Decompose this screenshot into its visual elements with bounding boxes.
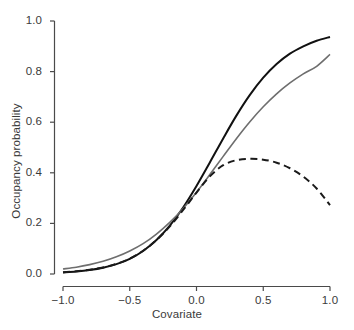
y-tick-label: 0.0 xyxy=(8,267,42,279)
y-axis-ticks xyxy=(50,21,55,274)
y-axis-title: Occupancy probability xyxy=(10,81,22,241)
chart-figure: 0.00.20.40.60.81.0 −1.0−0.50.00.51.0 Cov… xyxy=(0,0,354,330)
data-series-group xyxy=(63,37,330,273)
x-tick-label: −0.5 xyxy=(110,294,150,306)
y-tick-label: 0.8 xyxy=(8,65,42,77)
x-axis-ticks xyxy=(63,287,330,292)
x-tick-label: 1.0 xyxy=(310,294,350,306)
series-line-gray-solid-curve xyxy=(63,54,330,269)
series-line-black-dashed-curve xyxy=(63,159,330,272)
x-axis-title: Covariate xyxy=(0,308,354,320)
series-line-black-solid-curve xyxy=(63,37,330,273)
x-tick-label: 0.5 xyxy=(243,294,283,306)
x-tick-label: −1.0 xyxy=(43,294,83,306)
x-tick-label: 0.0 xyxy=(177,294,217,306)
y-tick-label: 1.0 xyxy=(8,14,42,26)
axis-lines xyxy=(55,21,331,287)
plot-area xyxy=(0,0,354,330)
